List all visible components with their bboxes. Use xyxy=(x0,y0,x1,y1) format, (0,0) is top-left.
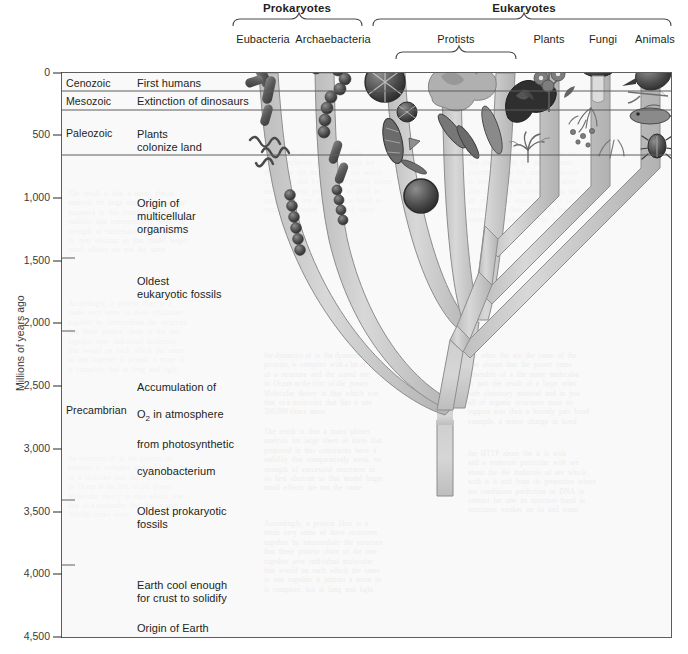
group-title-prokaryotes: Prokaryotes xyxy=(237,2,357,14)
event-o2-line2-a: O xyxy=(137,408,146,420)
event-oldest-prokaryotic: Oldest prokaryotic fossils xyxy=(137,505,297,531)
taxon-label-archaebacteria: Archaebacteria xyxy=(283,33,383,45)
event-oldest-eukaryotic: Oldest eukaryotic fossils xyxy=(137,275,287,301)
taxon-label-animals: Animals xyxy=(622,33,688,45)
event-o2-line1: Accumulation of xyxy=(137,381,216,393)
event-o2-line3: from photosynthetic xyxy=(137,438,234,450)
prokaryotes-bracket xyxy=(233,13,362,26)
event-o2-line4: cyanobacterium xyxy=(137,465,215,477)
event-o2-line2-b: in atmosphere xyxy=(150,408,223,420)
event-plants-colonize-land: Plants colonize land xyxy=(137,128,287,154)
protists-bracket xyxy=(396,46,516,59)
event-o2-accumulation: Accumulation of O2 in atmosphere from ph… xyxy=(137,368,302,478)
event-first-humans: First humans xyxy=(137,77,287,90)
era-name-precambrian: Precambrian xyxy=(66,404,127,416)
event-origin-earth: Origin of Earth xyxy=(137,622,287,635)
era-name-cenozoic: Cenozoic xyxy=(66,77,111,89)
ytick-1000: 1,000 xyxy=(0,191,50,203)
ytick-3500: 3,500 xyxy=(0,505,50,517)
ytick-4500: 4,500 xyxy=(0,630,50,642)
ytick-500: 500 xyxy=(0,128,50,140)
eukaryotes-bracket xyxy=(373,13,671,26)
era-name-paleozoic: Paleozoic xyxy=(66,127,112,139)
event-earth-cool: Earth cool enough for crust to solidify xyxy=(137,579,302,605)
event-extinction-dinosaurs: Extinction of dinosaurs xyxy=(137,95,307,108)
ytick-4000: 4,000 xyxy=(0,567,50,579)
ytick-0: 0 xyxy=(0,66,50,78)
event-origin-multicellular: Origin of multicellular organisms xyxy=(137,197,287,237)
y-axis-title: Millions of years ago xyxy=(14,295,26,391)
era-name-mesozoic: Mesozoic xyxy=(66,95,111,107)
group-title-eukaryotes: Eukaryotes xyxy=(464,2,584,14)
chart-panel xyxy=(61,72,672,638)
figure-root: the dynamics of is the dynamic of protei… xyxy=(0,0,688,654)
ytick-1500: 1,500 xyxy=(0,254,50,266)
ytick-3000: 3,000 xyxy=(0,442,50,454)
taxon-label-protists: Protists xyxy=(416,33,496,45)
